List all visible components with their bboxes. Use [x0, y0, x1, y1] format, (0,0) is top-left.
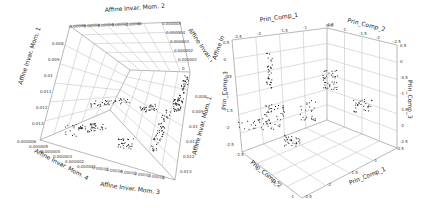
- data-point: [269, 71, 270, 72]
- data-point: [120, 103, 121, 104]
- data-point: [265, 114, 266, 115]
- data-point: [104, 103, 105, 104]
- data-point: [128, 148, 129, 149]
- tick-label: 0.000005: [162, 21, 182, 26]
- data-point: [364, 101, 365, 102]
- data-point: [255, 125, 256, 126]
- data-point: [334, 82, 335, 83]
- data-point: [143, 107, 144, 108]
- data-point: [325, 82, 326, 83]
- data-point: [268, 58, 269, 59]
- data-point: [325, 78, 326, 79]
- data-point: [365, 103, 366, 104]
- data-point: [74, 126, 75, 127]
- data-point: [166, 117, 167, 118]
- data-point: [152, 150, 153, 151]
- data-point: [283, 116, 284, 117]
- data-point: [306, 104, 307, 105]
- data-point: [121, 143, 122, 144]
- data-point: [334, 87, 335, 88]
- data-point: [90, 123, 91, 124]
- data-point: [259, 122, 260, 123]
- data-point: [123, 145, 124, 146]
- data-point: [279, 124, 280, 125]
- data-point: [254, 121, 255, 122]
- data-point: [183, 86, 184, 87]
- data-point: [87, 132, 88, 133]
- data-point: [355, 112, 356, 113]
- data-point: [281, 113, 282, 114]
- data-point: [325, 70, 326, 71]
- data-point: [302, 117, 303, 118]
- data-point: [169, 115, 170, 116]
- data-point: [279, 126, 280, 127]
- data-point: [271, 104, 272, 105]
- data-point: [183, 98, 184, 99]
- tick-label: -0.5: [396, 146, 404, 151]
- data-point: [118, 146, 119, 147]
- data-point: [152, 148, 153, 149]
- data-point: [174, 109, 175, 110]
- data-point: [156, 135, 157, 136]
- data-point: [103, 124, 104, 125]
- data-point: [85, 128, 86, 129]
- data-point: [266, 116, 267, 117]
- data-point: [336, 82, 337, 83]
- data-point: [132, 146, 133, 147]
- tick-label: 0.000003: [170, 39, 190, 44]
- data-point: [365, 110, 366, 111]
- grid-line: [45, 103, 113, 121]
- data-point: [100, 106, 101, 107]
- data-point: [283, 109, 284, 110]
- data-point: [267, 123, 268, 124]
- tick-label: -0.5: [400, 75, 408, 80]
- data-point: [261, 127, 262, 128]
- tick-label: -1.5: [225, 108, 233, 113]
- data-point: [129, 102, 130, 103]
- left-top-axis-label: Affine Invar. Mom. 2: [105, 2, 166, 13]
- data-point: [283, 105, 284, 106]
- data-point: [284, 145, 285, 146]
- data-point: [181, 101, 182, 102]
- data-point: [159, 132, 160, 133]
- tick-label: -1: [225, 91, 229, 96]
- data-point: [284, 139, 285, 140]
- data-point: [180, 97, 181, 98]
- data-point: [176, 110, 177, 111]
- data-point: [270, 108, 271, 109]
- right-3d-scatter-plot: Prin_Comp_1 Prin_Comp_2 Prin_Comp_3 Prin…: [212, 0, 424, 210]
- data-point: [76, 124, 77, 125]
- data-point: [91, 105, 92, 106]
- data-point: [258, 120, 259, 121]
- data-point: [272, 64, 273, 65]
- data-point: [270, 60, 271, 61]
- data-point: [175, 109, 176, 110]
- data-point: [149, 110, 150, 111]
- data-point: [120, 99, 121, 100]
- data-point: [182, 89, 183, 90]
- tick-label: -0.5: [224, 74, 232, 79]
- grid-line: [237, 74, 327, 96]
- data-point: [278, 125, 279, 126]
- data-point: [263, 123, 264, 124]
- data-point: [335, 77, 336, 78]
- data-point: [326, 76, 327, 77]
- data-point: [79, 127, 80, 128]
- tick-label: 0.012: [183, 154, 195, 159]
- tick-label: 0.009: [48, 57, 60, 62]
- data-point: [95, 130, 96, 131]
- tick-label: -2.5: [226, 142, 234, 147]
- data-point: [98, 104, 99, 105]
- tick-label: -1: [373, 158, 377, 163]
- data-point: [370, 106, 371, 107]
- data-point: [333, 89, 334, 90]
- data-point: [353, 100, 354, 101]
- data-point: [174, 110, 175, 111]
- data-point: [94, 124, 95, 125]
- data-point: [244, 128, 245, 129]
- data-point: [166, 112, 167, 113]
- data-point: [333, 77, 334, 78]
- data-point: [133, 138, 134, 139]
- data-point: [286, 145, 287, 146]
- tick-label: 0.013: [32, 121, 44, 126]
